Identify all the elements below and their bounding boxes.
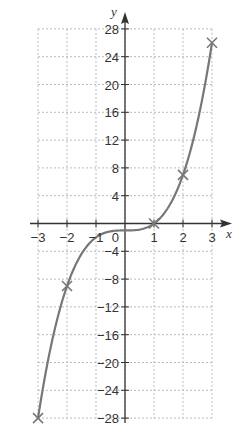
y-tick-label: 28: [105, 22, 119, 37]
y-tick-label: 24: [105, 50, 119, 65]
y-tick-label: 8: [112, 161, 119, 176]
x-tick-label: 1: [150, 230, 157, 245]
y-axis-label: y: [109, 4, 117, 19]
x-axis-label: x: [225, 226, 232, 241]
y-tick-label: 4: [112, 189, 119, 204]
cubic-function-chart: −3−2−11230282420161284−4−8−12−16−20−24−2…: [0, 0, 248, 441]
x-tick-label: −3: [31, 230, 46, 245]
axes: [30, 12, 232, 423]
x-tick-label: 2: [179, 230, 186, 245]
y-tick-label: 20: [105, 78, 119, 93]
y-tick-label: −12: [97, 300, 119, 315]
y-tick-label: 12: [105, 133, 119, 148]
y-tick-label: −28: [97, 411, 119, 426]
y-tick-label: −4: [104, 244, 119, 259]
y-tick-label: −16: [97, 328, 119, 343]
y-tick-label: −20: [97, 356, 119, 371]
y-tick-label: −24: [97, 383, 119, 398]
y-tick-label: 16: [105, 105, 119, 120]
y-tick-label: −8: [104, 272, 119, 287]
x-tick-label: −1: [89, 230, 104, 245]
origin-label: 0: [112, 230, 119, 245]
x-tick-label: 3: [208, 230, 215, 245]
x-tick-label: −2: [60, 230, 75, 245]
